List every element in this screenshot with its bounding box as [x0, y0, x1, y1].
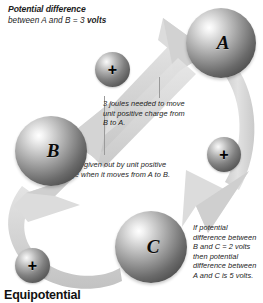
- positive-charge-right-label: +: [207, 137, 241, 172]
- positive-charge-top-label: +: [95, 52, 130, 87]
- positive-charge-right: +: [207, 137, 241, 172]
- positive-charge-bottom: +: [15, 248, 50, 283]
- sphere-b-label: B: [15, 116, 89, 186]
- sphere-c: C: [115, 211, 187, 283]
- figure-title-line1: Potential difference: [8, 4, 148, 15]
- annotation-b-to-a: 3 joules needed to move unit positive ch…: [103, 99, 187, 128]
- sphere-a-label: A: [186, 8, 258, 78]
- potential-difference-figure: Potential difference between A and B = 3…: [0, 0, 263, 303]
- figure-title: Potential difference between A and B = 3…: [8, 4, 148, 26]
- sphere-b: B: [15, 116, 87, 186]
- annotation-a-to-c: If potential difference between B and C …: [193, 223, 261, 281]
- figure-title-line2: between A and B = 3 volts: [8, 15, 148, 26]
- sphere-c-label: C: [115, 211, 189, 283]
- figure-title-line2-units: volts: [87, 16, 106, 25]
- sphere-a: A: [186, 8, 256, 78]
- figure-footer-caption: Equipotential: [4, 288, 81, 302]
- figure-title-line2-text: between A and B = 3: [8, 16, 87, 25]
- leader-line-top: [159, 77, 160, 98]
- positive-charge-bottom-label: +: [15, 248, 50, 283]
- positive-charge-top: +: [95, 52, 130, 87]
